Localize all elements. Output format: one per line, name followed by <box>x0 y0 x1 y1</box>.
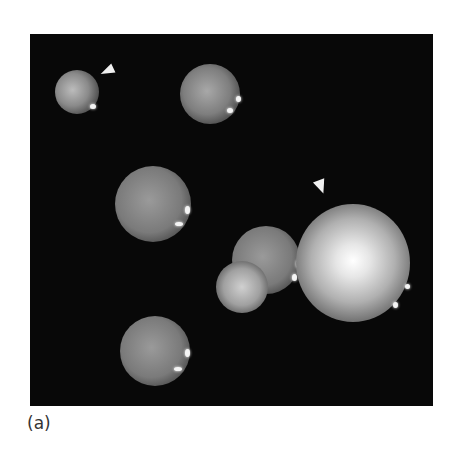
glint <box>405 284 410 289</box>
glint <box>236 96 241 102</box>
sphere-bottom-left <box>120 316 190 386</box>
glint <box>174 367 182 371</box>
glint <box>185 206 190 214</box>
arrowhead-icon <box>99 64 116 79</box>
sphere-top-middle <box>180 64 240 124</box>
panel-label: (a) <box>27 413 51 433</box>
sphere-center-front <box>216 261 268 313</box>
glint <box>393 302 398 308</box>
glint <box>227 108 233 113</box>
micrograph-panel <box>30 34 433 406</box>
glint <box>175 222 183 226</box>
glint <box>185 349 190 357</box>
sphere-middle-left <box>115 166 191 242</box>
arrowhead-icon <box>313 178 329 195</box>
glint <box>90 104 96 109</box>
